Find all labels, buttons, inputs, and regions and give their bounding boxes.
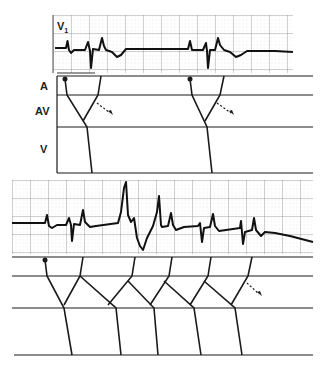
- blocked-arrow-icon: [229, 110, 234, 115]
- row-label-av: AV: [35, 105, 50, 117]
- row-label-a: A: [40, 80, 48, 92]
- row-label-v: V: [40, 143, 48, 155]
- ecg-strip-bottom: [12, 180, 313, 254]
- ecg-strip-top: V1: [53, 15, 293, 73]
- ladder-bottom: [12, 257, 313, 355]
- blocked-arrow-icon: [257, 291, 262, 296]
- blocked-arrow-icon: [108, 110, 113, 115]
- sinus-origin-dot: [43, 258, 48, 263]
- sinus-origin-dot: [63, 77, 68, 82]
- ladder-top: [57, 76, 313, 173]
- ladder-diagram: V1 A AV V: [0, 0, 333, 372]
- sinus-origin-dot: [188, 77, 193, 82]
